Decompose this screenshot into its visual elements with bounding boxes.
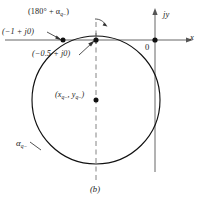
label-point-minus-one: (−1 + j0) xyxy=(2,28,34,36)
minus-one-leader xyxy=(47,32,62,40)
label-angle-top-close: ) xyxy=(66,7,69,16)
figure-caption: (b) xyxy=(90,184,100,194)
label-point-minus-half: (−0.5 + j0) xyxy=(32,50,70,58)
point-marker-xq-yq xyxy=(94,98,99,103)
minus-half-leader xyxy=(79,41,95,55)
point-marker-minus-half xyxy=(93,37,98,42)
axis-label-x: x xyxy=(190,32,194,42)
alpha-q-leader xyxy=(30,142,41,150)
angle-top-leader xyxy=(95,19,108,27)
point-marker-minus-one xyxy=(61,38,66,43)
label-angle-top-main: (180° + α xyxy=(28,7,60,16)
alpha-q-leader-line xyxy=(30,142,41,150)
label-alpha-q: αq− xyxy=(16,139,27,149)
x-axis-group xyxy=(5,37,193,42)
point-marker-origin xyxy=(152,37,157,42)
jy-axis-group xyxy=(152,8,157,172)
label-point-xq-yq: (xq−, yq−) xyxy=(55,91,84,100)
figure-container: (180° + αq−) (−1 + j0) (−0.5 + j0) (xq−,… xyxy=(0,0,204,209)
label-alpha-q-subscript: q− xyxy=(21,143,27,149)
jy-axis-arrowhead xyxy=(152,8,157,15)
axis-label-origin: 0 xyxy=(145,42,149,52)
label-angle-top: (180° + αq−) xyxy=(28,8,69,17)
axis-label-jy: jy xyxy=(163,9,169,19)
angle-top-leader-arrow xyxy=(103,23,108,27)
